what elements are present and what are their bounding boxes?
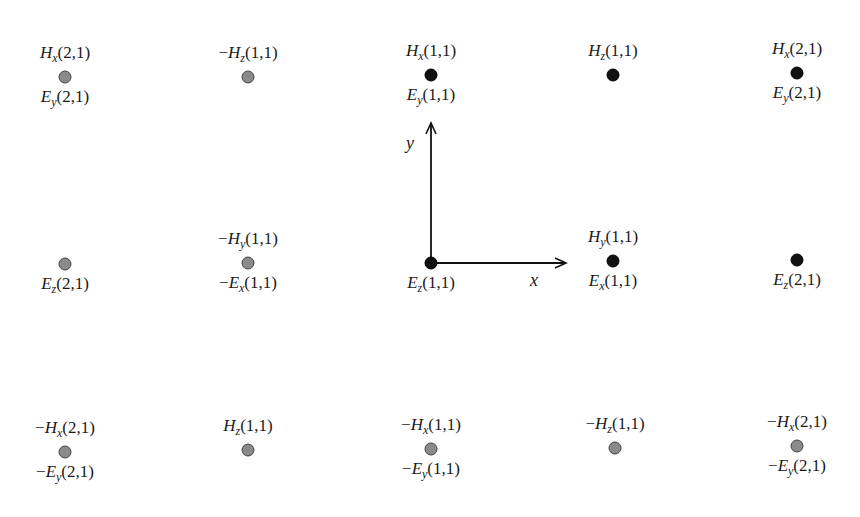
field-label-above: Hy(1,1) (588, 227, 638, 247)
field-label-below: −Ey(2,1) (36, 462, 94, 482)
field-label-above: −Hz(1,1) (218, 43, 277, 63)
grid-node-black (607, 69, 620, 82)
grid-node-gray (242, 444, 255, 457)
field-label-below: Ey(1,1) (407, 85, 455, 105)
grid-node-gray (791, 440, 804, 453)
grid-node-gray (242, 257, 255, 270)
field-label-above: −Hz(1,1) (585, 414, 644, 434)
field-label-above: −Hx(1,1) (401, 415, 461, 435)
grid-node-gray (425, 443, 438, 456)
field-label-below: Ex(1,1) (589, 271, 637, 291)
grid-node-black (425, 257, 438, 270)
field-label-above: Hz(1,1) (223, 416, 273, 436)
field-label-below: Ez(2,1) (41, 274, 89, 294)
grid-node-gray (242, 71, 255, 84)
field-label-above: Hz(1,1) (588, 41, 638, 61)
grid-node-gray (609, 442, 622, 455)
field-label-below: Ey(2,1) (773, 83, 821, 103)
field-label-below: Ez(2,1) (773, 270, 821, 290)
field-label-above: −Hy(1,1) (218, 229, 278, 249)
field-label-below: −Ey(2,1) (768, 456, 826, 476)
field-label-below: −Ex(1,1) (219, 273, 277, 293)
field-label-above: Hx(1,1) (406, 41, 456, 61)
grid-node-gray (59, 258, 72, 271)
field-label-below: Ey(2,1) (41, 87, 89, 107)
grid-node-gray (59, 71, 72, 84)
field-label-above: Hx(2,1) (772, 39, 822, 59)
field-label-above: Hx(2,1) (40, 43, 90, 63)
field-label-above: −Hx(2,1) (767, 412, 827, 432)
grid-node-black (791, 254, 804, 267)
grid-node-gray (59, 446, 72, 459)
y-axis-label: y (406, 133, 414, 154)
grid-node-black (607, 255, 620, 268)
field-label-above: −Hx(2,1) (35, 418, 95, 438)
x-axis-label: x (530, 270, 538, 291)
grid-node-black (791, 67, 804, 80)
field-label-below: −Ey(1,1) (402, 459, 460, 479)
grid-node-black (425, 69, 438, 82)
field-label-below: Ez(1,1) (407, 273, 455, 293)
